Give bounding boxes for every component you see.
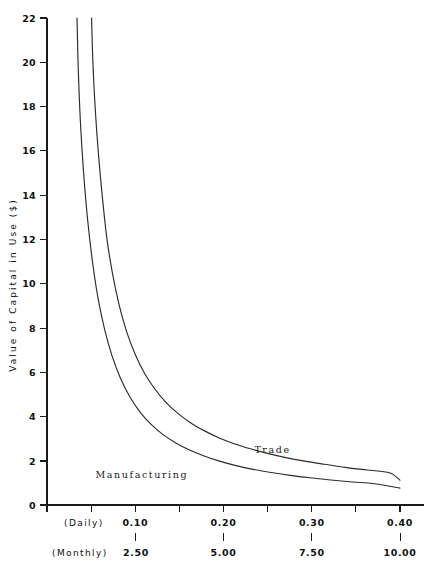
y-tick-label-14: 14 [22,190,36,201]
series-annotations: Trade Manufacturing [96,444,291,480]
y-tick-label-12: 12 [22,234,36,245]
x-axis-ticks-daily [47,505,400,512]
x-axis-ticks-monthly [135,533,400,541]
series-label-trade: Trade [254,444,290,455]
x-tick-label-daily-1: 0.20 [211,517,237,528]
axes [47,18,424,505]
y-tick-label-16: 16 [22,145,36,156]
x-tick-label-daily-3: 0.40 [387,517,413,528]
y-tick-label-8: 8 [29,323,36,334]
monthly-axis-name: (Monthly) [52,548,108,558]
y-axis-label: Value of Capital in Use ($) [8,198,18,372]
y-tick-label-0: 0 [29,500,36,511]
x-tick-label-monthly-0: 2.50 [123,547,149,558]
y-tick-label-4: 4 [29,411,36,422]
y-tick-label-6: 6 [29,367,36,378]
x-tick-label-daily-2: 0.30 [299,517,325,528]
x-axis-daily-row: (Daily) 0.10 0.20 0.30 0.40 [64,517,413,528]
y-axis-ticks: 22 20 18 16 14 12 10 8 6 4 2 0 [22,13,47,511]
y-axis-label-text: Value of Capital in Use ($) [8,198,18,372]
x-tick-label-monthly-3: 10.00 [383,547,416,558]
daily-axis-name: (Daily) [64,518,104,528]
series-curve-trade [92,18,400,480]
data-curves [77,18,400,488]
y-tick-label-22: 22 [22,13,36,24]
y-tick-label-20: 20 [22,57,36,68]
x-tick-label-monthly-2: 7.50 [299,547,325,558]
x-axis-monthly-row: (Monthly) 2.50 5.00 7.50 10.00 [52,547,417,558]
x-tick-label-monthly-1: 5.00 [211,547,237,558]
y-tick-label-2: 2 [29,456,36,467]
chart-svg: Value of Capital in Use ($) 22 20 18 16 … [0,0,431,567]
series-curve-manufacturing [77,18,400,488]
y-tick-label-18: 18 [22,101,36,112]
x-tick-label-daily-0: 0.10 [122,517,148,528]
chart-figure: Value of Capital in Use ($) 22 20 18 16 … [0,0,431,567]
y-tick-label-10: 10 [22,278,36,289]
series-label-manufacturing: Manufacturing [96,469,189,480]
